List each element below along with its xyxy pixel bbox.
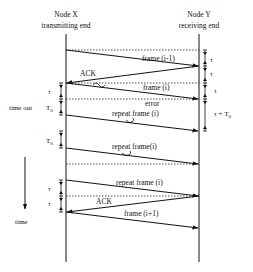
tau-label: τ <box>48 185 51 193</box>
ack-label: ACK <box>80 69 96 78</box>
left-interval-markers: τ T0 time out T0 τ τ <box>9 83 63 212</box>
message-repeat-frame-i-2: repeat frame(i) <box>66 142 198 164</box>
tau-label: τ <box>48 200 51 208</box>
frame-label: frame (i-1) <box>142 54 175 63</box>
frame-label: repeat frame (i) <box>116 178 163 187</box>
message-frame-i: frame (i) <box>66 83 198 99</box>
frame-label: repeat frame (i) <box>112 109 159 118</box>
message-repeat-frame-i-3: repeat frame (i) <box>66 178 198 196</box>
tau-label: τ <box>210 56 213 64</box>
t0-label: T0 <box>46 137 53 146</box>
frame-label: frame (i+1) <box>124 209 159 218</box>
time-axis-arrow: time <box>15 157 27 226</box>
error-label: error <box>145 99 160 108</box>
node-x-title: Node X <box>54 10 78 19</box>
right-interval-markers: τ τ τ τ + T0 <box>203 50 232 131</box>
ack-label: ACK <box>96 197 112 206</box>
message-frame-i-plus-1: frame (i+1) <box>66 209 198 228</box>
message-ack-1: ACK <box>67 66 199 83</box>
node-x-subtitle: transmitting end <box>42 21 91 30</box>
node-y-subtitle: receiving end <box>179 21 220 30</box>
frame-label: repeat frame(i) <box>112 142 157 151</box>
t0-label: T0 <box>46 104 53 113</box>
tau-plus-t0-label: τ + T0 <box>214 110 232 119</box>
node-y-title: Node Y <box>187 10 211 19</box>
tau-label: τ <box>48 88 51 96</box>
message-repeat-frame-i-1: repeat frame (i) <box>66 109 198 131</box>
frame-label: frame (i) <box>143 83 170 92</box>
time-out-label: time out <box>9 104 32 112</box>
tau-label: τ <box>214 87 217 95</box>
message-frame-i-minus-1: frame (i-1) <box>66 50 198 66</box>
arq-timing-diagram: Node X transmitting end Node Y receiving… <box>0 0 253 272</box>
time-label: time <box>15 218 27 226</box>
tau-label: τ <box>210 70 213 78</box>
